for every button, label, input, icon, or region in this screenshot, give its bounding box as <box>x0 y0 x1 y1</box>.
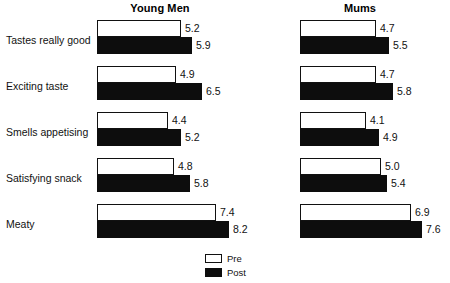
value-label-mums-pre-0: 4.7 <box>380 23 395 34</box>
value-label-mums-pre-1: 4.7 <box>380 69 395 80</box>
bar-young_men-post-2 <box>97 129 181 146</box>
value-label-young_men-pre-2: 4.4 <box>172 115 187 126</box>
bar-young_men-post-4 <box>97 221 229 238</box>
chart-legend: Pre Post <box>205 253 295 281</box>
bar-young_men-pre-1 <box>97 66 176 83</box>
bar-young_men-pre-0 <box>97 20 181 37</box>
panel-title-young-men: Young Men <box>100 2 220 14</box>
value-label-young_men-post-3: 5.8 <box>194 178 209 189</box>
value-label-young_men-pre-4: 7.4 <box>220 207 235 218</box>
bar-mums-pre-3 <box>300 158 381 175</box>
value-label-young_men-post-4: 8.2 <box>233 224 248 235</box>
value-label-young_men-pre-3: 4.8 <box>178 161 193 172</box>
legend-row-post: Post <box>205 267 295 279</box>
value-label-young_men-pre-1: 4.9 <box>180 69 195 80</box>
bar-mums-pre-4 <box>300 204 411 221</box>
bar-mums-post-4 <box>300 221 422 238</box>
value-label-mums-post-0: 5.5 <box>393 40 408 51</box>
bar-mums-pre-0 <box>300 20 376 37</box>
bar-mums-post-0 <box>300 37 389 54</box>
legend-label-post: Post <box>227 267 246 278</box>
value-label-young_men-post-1: 6.5 <box>206 86 221 97</box>
panel-title-mums: Mums <box>300 2 420 14</box>
category-label-tastes-really-good: Tastes really good <box>6 34 91 46</box>
value-label-mums-pre-3: 5.0 <box>385 161 400 172</box>
category-label-exciting-taste: Exciting taste <box>6 80 68 92</box>
value-label-mums-post-3: 5.4 <box>391 178 406 189</box>
bar-young_men-post-0 <box>97 37 192 54</box>
bar-young_men-post-1 <box>97 83 202 100</box>
value-label-mums-post-4: 7.6 <box>426 224 441 235</box>
bar-mums-post-2 <box>300 129 379 146</box>
value-label-mums-post-2: 4.9 <box>383 132 398 143</box>
bar-young_men-pre-3 <box>97 158 174 175</box>
value-label-young_men-pre-0: 5.2 <box>185 23 200 34</box>
bar-young_men-post-3 <box>97 175 190 192</box>
legend-row-pre: Pre <box>205 253 295 265</box>
category-label-satisfying-snack: Satisfying snack <box>6 172 82 184</box>
category-label-meaty: Meaty <box>6 218 35 230</box>
value-label-young_men-post-2: 5.2 <box>185 132 200 143</box>
value-label-mums-pre-2: 4.1 <box>370 115 385 126</box>
bar-mums-pre-1 <box>300 66 376 83</box>
bar-mums-post-3 <box>300 175 387 192</box>
bar-mums-post-1 <box>300 83 393 100</box>
bar-young_men-pre-4 <box>97 204 216 221</box>
grouped-bar-chart: Young Men Mums Tastes really good Exciti… <box>0 0 450 283</box>
legend-swatch-pre-icon <box>205 254 222 263</box>
bar-mums-pre-2 <box>300 112 366 129</box>
value-label-mums-pre-4: 6.9 <box>415 207 430 218</box>
legend-label-pre: Pre <box>227 253 242 264</box>
value-label-young_men-post-0: 5.9 <box>196 40 211 51</box>
bar-young_men-pre-2 <box>97 112 168 129</box>
value-label-mums-post-1: 5.8 <box>397 86 412 97</box>
legend-swatch-post-icon <box>205 268 222 277</box>
category-label-smells-appetising: Smells appetising <box>6 126 88 138</box>
